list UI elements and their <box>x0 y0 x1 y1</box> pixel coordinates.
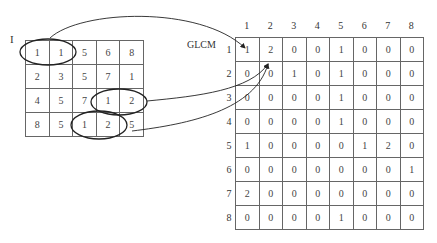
arrow-to-glcm-1-2-b <box>132 64 268 131</box>
arrow-to-glcm-1-2-a <box>147 64 268 101</box>
annotation-overlay <box>0 0 437 243</box>
pair-ellipse-1-2-row4 <box>71 111 127 139</box>
arrow-to-glcm-1-1 <box>50 16 245 48</box>
pair-ellipse-1-1 <box>20 39 76 65</box>
